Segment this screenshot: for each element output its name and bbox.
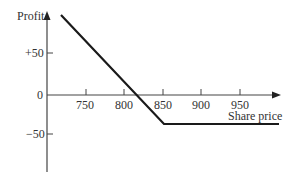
y-axis-label: Profit: [17, 10, 44, 22]
y-tick-label-p50: +50: [25, 47, 44, 59]
y-tick-label-m50: −50: [26, 128, 45, 140]
chart-canvas: [0, 0, 292, 177]
x-axis-arrow-icon: [272, 92, 281, 99]
x-axis-label: Share price: [228, 110, 282, 122]
x-tick-label-850: 850: [154, 99, 172, 111]
y-tick-label-0: 0: [37, 89, 43, 101]
x-tick-label-900: 900: [192, 99, 210, 111]
y-axis-arrow-icon: [44, 11, 51, 20]
x-tick-label-750: 750: [76, 99, 94, 111]
x-tick-label-800: 800: [115, 99, 133, 111]
